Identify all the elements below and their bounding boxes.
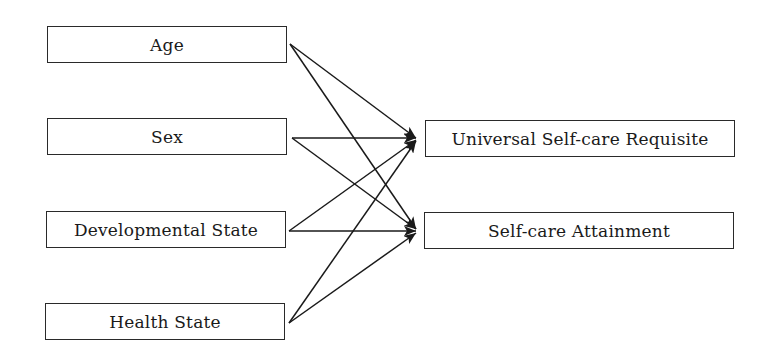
edge-age-to-attainment [290,44,416,229]
edge-health-to-attainment [289,233,416,323]
node-label: Developmental State [74,220,258,240]
node-label: Self-care Attainment [488,221,670,241]
path-diagram: Age Sex Developmental State Health State… [0,0,775,362]
node-self-care-attainment: Self-care Attainment [424,212,734,249]
node-label: Universal Self-care Requisite [451,129,708,149]
edge-developmental-to-universal [289,140,416,231]
node-label: Sex [151,127,183,147]
node-age: Age [47,26,287,63]
node-developmental-state: Developmental State [46,211,286,248]
node-label: Age [150,35,184,55]
node-label: Health State [109,312,221,332]
node-universal-self-care-requisite: Universal Self-care Requisite [425,120,735,157]
edge-age-to-universal [290,44,416,138]
node-sex: Sex [47,118,287,155]
node-health-state: Health State [45,303,285,340]
edge-health-to-universal [289,141,416,323]
